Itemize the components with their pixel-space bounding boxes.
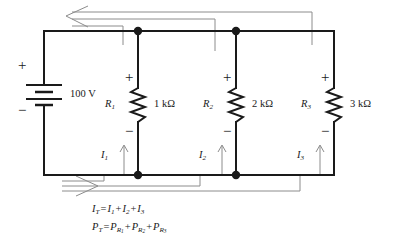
resistor-2-name: R2 bbox=[203, 99, 213, 111]
resistor-1-name: R1 bbox=[105, 99, 115, 111]
circuit-wires bbox=[44, 31, 334, 175]
resistor-1-plus-sign: + bbox=[125, 70, 133, 85]
resistor-3-zigzag bbox=[327, 88, 341, 122]
battery-symbol bbox=[26, 85, 62, 105]
resistor-3-minus-sign: − bbox=[321, 124, 329, 139]
resistor-1-minus-sign: − bbox=[125, 124, 133, 139]
current-flow-indicators bbox=[62, 6, 324, 196]
battery-minus-sign: − bbox=[18, 103, 26, 118]
junction-dot-bottom-2 bbox=[232, 171, 240, 179]
current-1-label: I1 bbox=[101, 150, 108, 162]
branch-current-arrow-2 bbox=[218, 145, 226, 175]
equation-total-power: PT=PR1+PR2+PR3 bbox=[92, 221, 167, 234]
resistor-2-zigzag bbox=[229, 88, 243, 122]
branch-current-arrow-1 bbox=[120, 145, 128, 175]
resistor-1-value: 1 kΩ bbox=[154, 99, 175, 110]
battery-voltage-label: 100 V bbox=[70, 89, 96, 100]
battery-plus-sign: + bbox=[18, 58, 26, 73]
current-2-label: I2 bbox=[199, 150, 206, 162]
bottom-current-arrow-group bbox=[62, 175, 300, 196]
resistor-2-value: 2 kΩ bbox=[252, 99, 273, 110]
equation-total-current: IT=I1+I2+I3 bbox=[92, 203, 144, 216]
resistor-3-name: R3 bbox=[301, 99, 311, 111]
circuit-diagram-canvas: + − 100 V + − R1 1 kΩ I1 + − R2 2 kΩ I2 … bbox=[0, 0, 393, 252]
junction-dot-bottom-1 bbox=[134, 171, 142, 179]
branch-current-arrow-3 bbox=[316, 145, 324, 175]
resistor-2-plus-sign: + bbox=[223, 70, 231, 85]
junction-dots bbox=[134, 27, 240, 179]
junction-dot-top-2 bbox=[232, 27, 240, 35]
resistor-1-zigzag bbox=[131, 88, 145, 122]
junction-dot-top-1 bbox=[134, 27, 142, 35]
circuit-schematic-svg bbox=[0, 0, 393, 252]
top-current-arrow-group bbox=[66, 6, 312, 51]
resistor-2-minus-sign: − bbox=[223, 124, 231, 139]
resistor-3-plus-sign: + bbox=[321, 70, 329, 85]
current-3-label: I3 bbox=[297, 150, 304, 162]
resistor-3-value: 3 kΩ bbox=[350, 99, 371, 110]
